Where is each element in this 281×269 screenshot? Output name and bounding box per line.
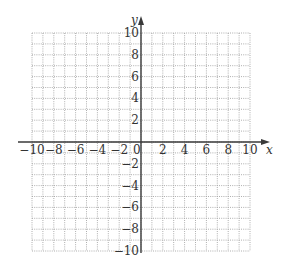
- x-tick-label: 10: [242, 143, 257, 157]
- y-axis-label: y: [130, 13, 138, 27]
- coordinate-plane: −10−8−6−4−2246810108642−2−4−6−8−10 x y 0: [0, 0, 281, 269]
- y-tick-label: −2: [121, 157, 139, 171]
- y-tick-label: −4: [121, 179, 139, 193]
- x-tick-label: −6: [67, 143, 85, 157]
- y-tick-label: 10: [124, 26, 139, 40]
- y-axis-arrow-icon: [138, 16, 144, 25]
- y-tick-label: −6: [121, 200, 139, 214]
- x-tick-label: 2: [159, 143, 167, 157]
- x-tick-label: 4: [181, 143, 189, 157]
- y-tick-label: 8: [131, 48, 139, 62]
- y-tick-label: 6: [131, 70, 139, 84]
- y-tick-label: 2: [131, 113, 139, 127]
- axes: [18, 16, 270, 253]
- y-tick-label: −8: [121, 222, 139, 236]
- origin-label: 0: [133, 143, 141, 157]
- x-tick-label: 8: [224, 143, 232, 157]
- y-tick-label: 4: [131, 91, 139, 105]
- x-tick-label: −8: [45, 143, 63, 157]
- x-axis-label: x: [266, 143, 273, 157]
- x-tick-label: 6: [203, 143, 211, 157]
- coordinate-plane-svg: −10−8−6−4−2246810108642−2−4−6−8−10 x y 0: [0, 0, 281, 269]
- x-tick-label: −2: [110, 143, 128, 157]
- y-tick-label: −10: [114, 244, 139, 258]
- x-tick-label: −10: [19, 143, 44, 157]
- x-tick-label: −4: [89, 143, 107, 157]
